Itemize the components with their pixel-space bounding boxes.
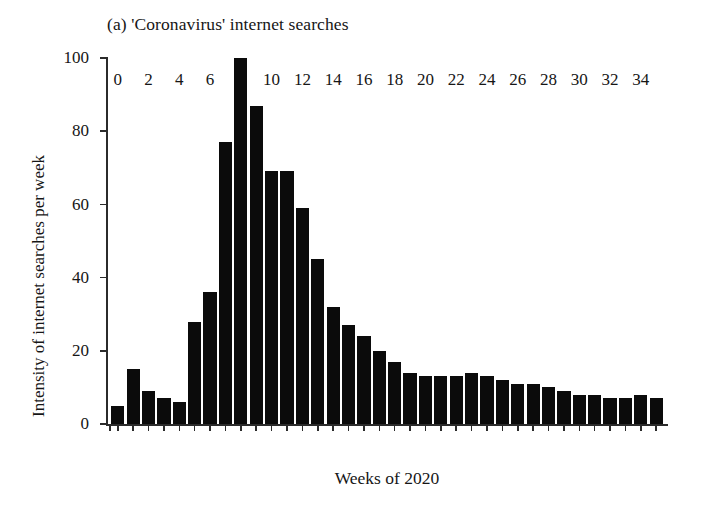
x-axis-tick-label: 18 (386, 70, 403, 90)
x-axis-tick (502, 424, 504, 431)
x-axis-tick (109, 424, 111, 431)
x-axis-tick-label: 10 (263, 70, 280, 90)
y-axis-tick-label: 40 (72, 268, 89, 288)
x-axis-tick (132, 424, 134, 431)
bar (542, 387, 555, 424)
bar (203, 292, 216, 424)
y-axis-tick: 0 (100, 423, 107, 425)
x-axis-tick (579, 424, 581, 431)
bar (111, 406, 124, 424)
bar (480, 376, 493, 424)
x-axis-tick (348, 424, 350, 431)
x-axis-tick (148, 424, 150, 431)
bar (434, 376, 447, 424)
bar (127, 369, 140, 424)
bar (280, 171, 293, 424)
x-axis-tick (302, 424, 304, 431)
bar (650, 398, 663, 424)
x-axis-tick (486, 424, 488, 431)
x-axis-tick-label: 32 (602, 70, 619, 90)
x-axis-tick (271, 424, 273, 431)
x-axis-tick-label: 24 (479, 70, 496, 90)
x-axis-tick (609, 424, 611, 431)
x-axis-tick (640, 424, 642, 431)
x-axis-tick (194, 424, 196, 431)
bar (511, 384, 524, 424)
y-axis-label-container: Intensity of internet searches per week (0, 0, 34, 440)
bar (419, 376, 432, 424)
x-axis-tick (179, 424, 181, 431)
x-axis-tick (394, 424, 396, 431)
bar (373, 351, 386, 424)
y-axis-tick-label: 100 (64, 48, 90, 68)
x-axis-tick (379, 424, 381, 431)
figure: (a) 'Coronavirus' internet searches Inte… (0, 0, 701, 506)
bar (573, 395, 586, 424)
x-axis-tick-label: 22 (448, 70, 465, 90)
y-axis-tick: 20 (100, 350, 107, 352)
x-axis-tick (548, 424, 550, 431)
x-axis-tick (563, 424, 565, 431)
x-axis-tick-label: 12 (294, 70, 311, 90)
bar (296, 208, 309, 424)
x-axis-tick (363, 424, 365, 431)
x-axis-tick (625, 424, 627, 431)
y-axis-tick: 100 (100, 57, 107, 59)
x-axis-tick (163, 424, 165, 431)
x-axis-tick-label: 6 (206, 70, 215, 90)
x-axis-tick-label: 20 (417, 70, 434, 90)
x-axis-tick (317, 424, 319, 431)
x-axis-tick (255, 424, 257, 431)
x-axis-tick-label: 26 (509, 70, 526, 90)
x-axis-tick (532, 424, 534, 431)
bar (188, 322, 201, 424)
bar (465, 373, 478, 424)
bar (388, 362, 401, 424)
x-axis-tick-label: 16 (355, 70, 372, 90)
x-axis-tick (440, 424, 442, 431)
x-axis-tick-label: 14 (325, 70, 342, 90)
x-axis-tick-label: 4 (175, 70, 184, 90)
x-axis-tick-label: 0 (114, 70, 123, 90)
x-axis-label: Weeks of 2020 (107, 468, 667, 489)
bar (527, 384, 540, 424)
bar (250, 106, 263, 424)
bar (219, 142, 232, 424)
bar (173, 402, 186, 424)
y-axis-tick-label: 80 (72, 121, 89, 141)
x-axis-tick (240, 424, 242, 431)
x-axis-tick (209, 424, 211, 431)
x-axis-spine (106, 424, 668, 426)
x-axis-tick (655, 424, 657, 431)
plot-area: 020406080100 024681012141618202224262830… (107, 58, 667, 424)
x-axis-tick (425, 424, 427, 431)
bar (403, 373, 416, 424)
x-axis-tick-label: 2 (144, 70, 153, 90)
bar (234, 58, 247, 424)
bar (634, 395, 647, 424)
x-axis-tick (332, 424, 334, 431)
bar (265, 171, 278, 424)
bar (619, 398, 632, 424)
bar (557, 391, 570, 424)
bar (142, 391, 155, 424)
x-axis-tick (517, 424, 519, 431)
bar (311, 259, 324, 424)
bar (342, 325, 355, 424)
x-axis-tick (455, 424, 457, 431)
y-axis-tick-label: 60 (72, 195, 89, 215)
x-axis-tick-label: 30 (571, 70, 588, 90)
y-axis-tick-label: 0 (81, 414, 90, 434)
chart-title: (a) 'Coronavirus' internet searches (107, 14, 349, 35)
bar (157, 398, 170, 424)
x-axis-tick (409, 424, 411, 431)
x-axis-tick-label: 28 (540, 70, 557, 90)
x-axis-tick (225, 424, 227, 431)
y-axis-label: Intensity of internet searches per week (29, 155, 49, 417)
bar (327, 307, 340, 424)
bar (357, 336, 370, 424)
y-axis-tick: 60 (100, 204, 107, 206)
y-axis-tick: 80 (100, 130, 107, 132)
bar (496, 380, 509, 424)
y-axis-spine (106, 57, 108, 424)
